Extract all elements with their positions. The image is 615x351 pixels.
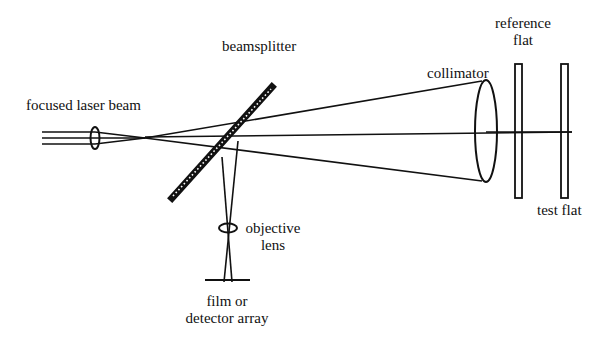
label-objective-line2: lens [238,237,308,254]
label-detector: film or detector array [170,293,284,327]
beamsplitter-icon [172,87,272,198]
laser-input-beam [42,132,95,144]
label-beamsplitter: beamsplitter [222,38,296,55]
converging-rays [95,132,145,144]
reflected-rays [222,141,238,282]
label-reference-flat-line2: flat [478,32,568,49]
label-reference-flat-line1: reference [478,15,568,32]
label-objective-lens: objective lens [238,220,308,254]
label-detector-line1: film or [170,293,284,310]
label-collimator: collimator [427,65,489,82]
label-objective-line1: objective [238,220,308,237]
reference-flat-icon [515,64,522,198]
collimator-lens-icon [475,80,497,182]
label-test-flat: test flat [537,202,582,219]
label-reference-flat: reference flat [478,15,568,49]
label-focused-laser-beam: focused laser beam [26,97,141,114]
diagram-graphics [0,0,615,351]
diverging-rays [145,81,572,181]
optical-diagram: focused laser beam beamsplitter collimat… [0,0,615,351]
label-detector-line2: detector array [170,310,284,327]
test-flat-icon [561,64,568,198]
